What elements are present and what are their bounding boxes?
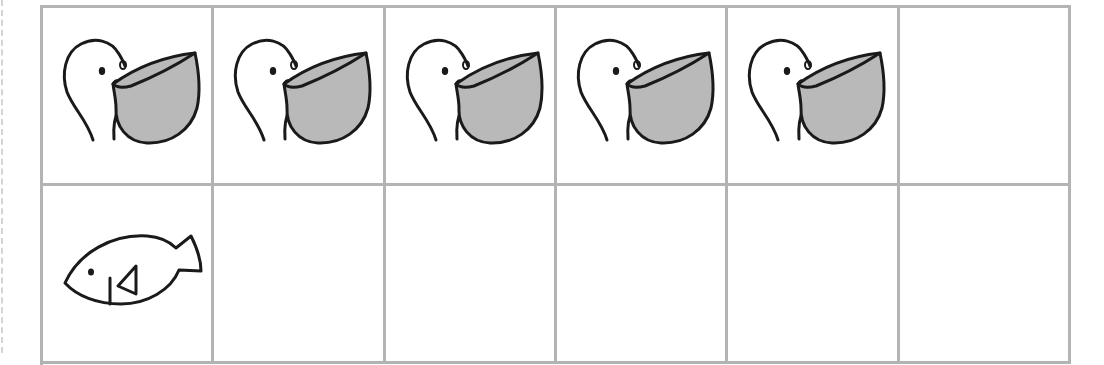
pelican-icon [386,8,556,183]
pelican-icon [214,8,384,183]
grid-cell-r1-c6 [900,8,1071,186]
grid-cell-r1-c5 [728,8,899,186]
grid-cell-r1-c3 [386,8,557,186]
grid-cell-r1-c2 [214,8,385,186]
grid-cell-r2-c2 [214,186,385,364]
pelican-icon [728,8,898,183]
pelican-icon [557,8,727,183]
grid-cell-r1-c1 [43,8,214,186]
grid-cell-r2-c3 [386,186,557,364]
fish-icon [43,186,213,361]
counting-grid [40,5,1071,365]
grid-cell-r2-c1 [43,186,214,364]
pelican-icon [43,8,213,183]
grid-cell-r2-c6 [900,186,1071,364]
page-margin-dashed-line [1,0,3,353]
grid-cell-r1-c4 [557,8,728,186]
grid-cell-r2-c4 [557,186,728,364]
grid-cell-r2-c5 [728,186,899,364]
